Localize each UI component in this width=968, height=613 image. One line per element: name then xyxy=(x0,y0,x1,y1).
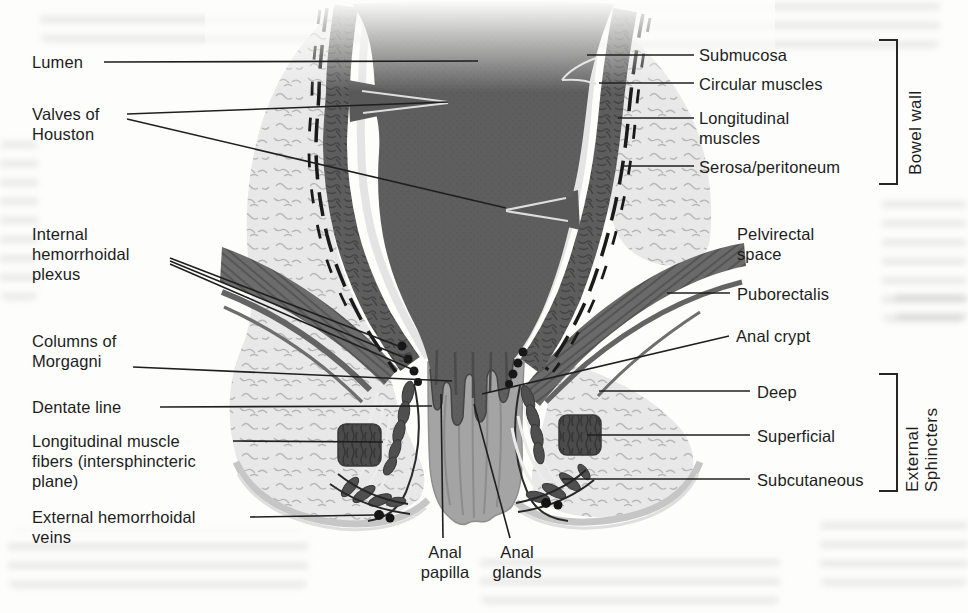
scan-fade xyxy=(205,0,775,92)
external-sphincters-bracket xyxy=(879,374,897,491)
label-external-sphincters: External Sphincters xyxy=(903,408,941,492)
leader-line-longitudinal-fibers xyxy=(233,441,383,442)
label-deep: Deep xyxy=(757,382,797,402)
label-puborectalis: Puborectalis xyxy=(737,284,829,304)
label-anal-papilla: Anal papilla xyxy=(415,542,475,582)
brackets xyxy=(879,40,897,491)
label-lumen: Lumen xyxy=(32,52,83,72)
superficial-external-sphincter-left xyxy=(338,424,381,466)
leader-line-dentate xyxy=(160,406,432,407)
label-serosa-peritoneum: Serosa/peritoneum xyxy=(699,157,840,177)
scanned-figure-page: Lumen Valves of Houston Internal hemorrh… xyxy=(0,0,968,613)
label-valves-of-houston: Valves of Houston xyxy=(32,104,100,144)
label-internal-hemorrhoidal-plexus: Internal hemorrhoidal plexus xyxy=(32,224,130,284)
label-longitudinal-muscles: Longitudinal muscles xyxy=(699,108,789,148)
label-columns-of-morgagni: Columns of Morgagni xyxy=(32,331,116,371)
label-circular-muscles: Circular muscles xyxy=(699,74,823,94)
label-superficial: Superficial xyxy=(757,426,835,446)
label-dentate-line: Dentate line xyxy=(32,397,121,417)
bowel-wall-bracket xyxy=(879,40,897,184)
label-anal-crypt: Anal crypt xyxy=(736,326,810,346)
label-bowel-wall: Bowel wall xyxy=(906,91,925,175)
label-submucosa: Submucosa xyxy=(699,45,787,65)
label-pelvirectal-space: Pelvirectal space xyxy=(737,224,814,264)
label-longitudinal-muscle-fibers: Longitudinal muscle fibers (intersphinct… xyxy=(32,431,196,491)
leader-line-lumen xyxy=(104,61,478,62)
label-subcutaneous: Subcutaneous xyxy=(757,470,864,490)
label-anal-glands: Anal glands xyxy=(486,542,548,582)
label-external-hemorrhoidal-veins: External hemorrhoidal veins xyxy=(32,507,196,547)
